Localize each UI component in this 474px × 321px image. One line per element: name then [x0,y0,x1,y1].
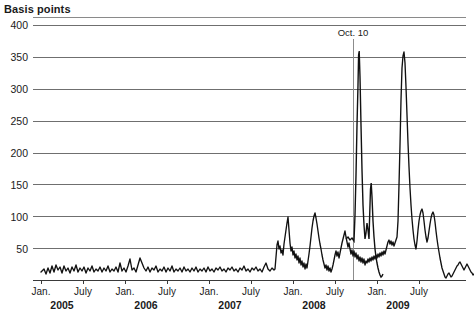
x-tick-9 [419,280,420,284]
x-tick-4 [209,280,210,284]
x-tick-3 [167,280,168,284]
x-tick-label-6: Jan. [284,286,303,297]
chart-container: Basis points 400 350 300 250 200 150 100… [0,0,474,321]
x-tick-2 [125,280,126,284]
x-tick-label-0: Jan. [32,286,51,297]
x-year-label-2009: 2009 [386,300,409,311]
x-tick-1 [83,280,84,284]
annotation-label-oct-10: Oct. 10 [338,27,369,38]
y-axis-title: Basis points [4,3,71,15]
series-spike-detail [33,25,466,280]
y-tick-label-300: 300 [0,84,28,95]
y-tick-label-100: 100 [0,212,28,223]
plot-area [33,25,466,280]
title-rule [33,17,466,18]
x-year-label-2005: 2005 [50,300,73,311]
x-tick-label-9: July [410,286,428,297]
x-tick-7 [335,280,336,284]
x-tick-6 [293,280,294,284]
y-tick-label-200: 200 [0,148,28,159]
x-tick-label-7: July [326,286,344,297]
x-tick-label-1: July [74,286,92,297]
y-tick-label-50: 50 [0,244,28,255]
x-tick-label-5: July [242,286,260,297]
x-year-label-2007: 2007 [218,300,241,311]
y-tick-label-350: 350 [0,52,28,63]
x-year-label-2008: 2008 [302,300,325,311]
x-tick-label-4: Jan. [200,286,219,297]
x-tick-0 [41,280,42,284]
x-tick-label-3: July [158,286,176,297]
x-axis-line [33,280,466,281]
x-tick-8 [377,280,378,284]
y-tick-label-400: 400 [0,20,28,31]
x-year-label-2006: 2006 [134,300,157,311]
y-tick-label-150: 150 [0,180,28,191]
x-tick-label-2: Jan. [116,286,135,297]
y-tick-label-250: 250 [0,116,28,127]
x-tick-label-8: Jan. [368,286,387,297]
x-tick-5 [251,280,252,284]
